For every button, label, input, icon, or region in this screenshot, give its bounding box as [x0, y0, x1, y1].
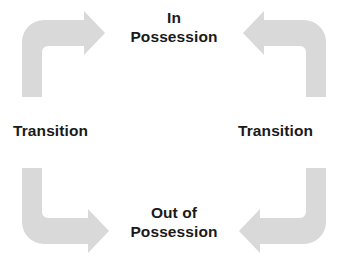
node-label-out-of-possession: Out of Possession: [119, 204, 229, 242]
node-label-transition-right: Transition: [238, 122, 343, 140]
cycle-diagram: In Possession Transition Out of Possessi…: [0, 0, 348, 264]
arrow-top-right-icon: [243, 11, 326, 97]
node-label-transition-left: Transition: [13, 122, 118, 140]
arrow-top-left-icon: [22, 11, 105, 97]
arrow-bottom-left-icon: [22, 168, 109, 253]
node-label-in-possession: In Possession: [119, 9, 229, 47]
arrow-bottom-right-icon: [239, 168, 326, 253]
